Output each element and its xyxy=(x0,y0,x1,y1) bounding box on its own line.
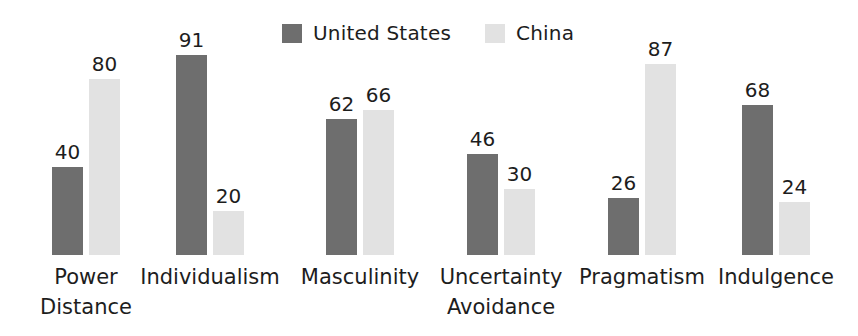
bar-value-united-states: 91 xyxy=(179,30,204,50)
bar-value-united-states: 62 xyxy=(329,94,354,114)
bar-united-states[interactable] xyxy=(467,154,498,255)
bar-value-united-states: 68 xyxy=(745,80,770,100)
bar-united-states[interactable] xyxy=(176,55,207,255)
bar-value-china: 80 xyxy=(92,54,117,74)
bar-value-china: 66 xyxy=(366,85,391,105)
category-label-line1: Individualism xyxy=(140,265,280,289)
category-label-power-distance: Power Distance xyxy=(40,262,132,322)
bar-china[interactable] xyxy=(213,211,244,255)
category-label-line1: Indulgence xyxy=(718,265,834,289)
bar-group-uncertainty-avoidance: 46 30 Uncertainty Avoidance xyxy=(467,0,535,336)
bar-china[interactable] xyxy=(504,189,535,255)
bar-chart: United States China 40 80 Power Distanc xyxy=(0,0,858,336)
bar-value-united-states: 26 xyxy=(611,173,636,193)
bar-value-china: 20 xyxy=(216,186,241,206)
bar-group-individualism: 91 20 Individualism xyxy=(176,0,244,336)
plot-area: 40 80 Power Distance 91 xyxy=(0,0,858,336)
category-label-indulgence: Indulgence xyxy=(718,262,834,292)
bar-value-china: 87 xyxy=(648,39,673,59)
bar-united-states[interactable] xyxy=(326,119,357,255)
category-label-line2: Avoidance xyxy=(440,292,563,322)
bar-united-states[interactable] xyxy=(52,167,83,255)
bar-united-states[interactable] xyxy=(742,105,773,255)
category-label-uncertainty-avoidance: Uncertainty Avoidance xyxy=(440,262,563,322)
bar-china[interactable] xyxy=(363,110,394,255)
category-label-line1: Uncertainty xyxy=(440,265,563,289)
bar-value-united-states: 46 xyxy=(470,129,495,149)
category-label-individualism: Individualism xyxy=(140,262,280,292)
bar-group-masculinity: 62 66 Masculinity xyxy=(326,0,394,336)
category-label-line1: Power xyxy=(54,265,118,289)
bar-china[interactable] xyxy=(645,64,676,255)
category-label-masculinity: Masculinity xyxy=(301,262,419,292)
bar-value-china: 30 xyxy=(507,164,532,184)
bar-value-china: 24 xyxy=(782,177,807,197)
bar-group-indulgence: 68 24 Indulgence xyxy=(742,0,810,336)
bar-group-pragmatism: 26 87 Pragmatism xyxy=(608,0,676,336)
bar-value-united-states: 40 xyxy=(55,142,80,162)
category-label-pragmatism: Pragmatism xyxy=(579,262,705,292)
category-label-line1: Masculinity xyxy=(301,265,419,289)
bar-united-states[interactable] xyxy=(608,198,639,255)
bar-china[interactable] xyxy=(779,202,810,255)
category-label-line1: Pragmatism xyxy=(579,265,705,289)
bar-group-power-distance: 40 80 Power Distance xyxy=(52,0,120,336)
category-label-line2: Distance xyxy=(40,292,132,322)
bar-china[interactable] xyxy=(89,79,120,255)
